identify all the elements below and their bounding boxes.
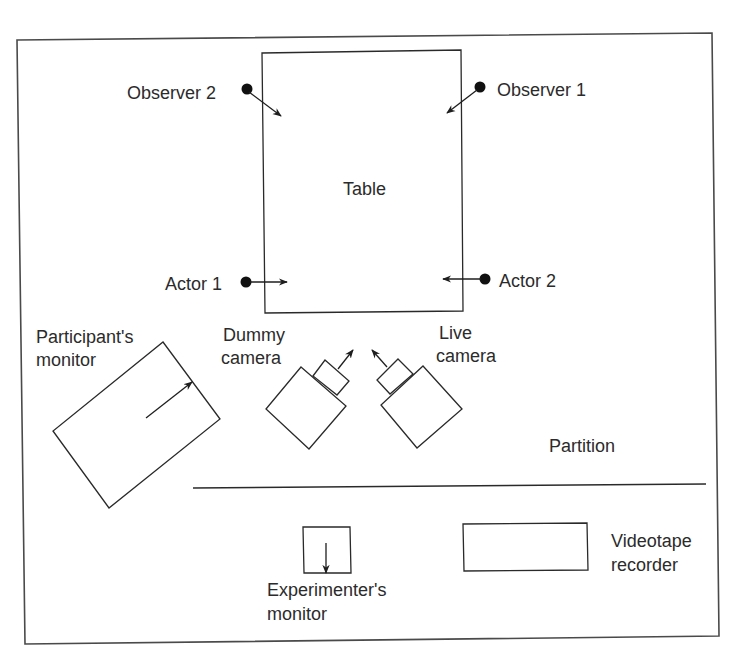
actor-1-label: Actor 1	[165, 274, 222, 294]
live-camera-direction-arrow	[372, 350, 387, 367]
live-camera-label-line2: camera	[436, 346, 497, 366]
experimenters-monitor-label-line1: Experimenter's	[267, 580, 386, 600]
actor-1-dot	[241, 277, 252, 288]
table-label: Table	[343, 179, 386, 199]
live-camera-label-line1: Live	[439, 323, 472, 343]
participants-monitor-direction-arrow	[146, 382, 192, 418]
observer-2-gaze-arrow	[249, 92, 281, 116]
dummy-camera-label-line2: camera	[221, 348, 282, 368]
videotape-recorder-box	[463, 523, 588, 571]
actor-2-label: Actor 2	[499, 271, 556, 291]
live-camera-body	[381, 366, 462, 448]
videotape-recorder-label-line2: recorder	[611, 555, 678, 575]
observer-2-label: Observer 2	[127, 83, 216, 103]
videotape-recorder-label-line1: Videotape	[611, 531, 692, 551]
participants-monitor-label-line2: monitor	[36, 350, 96, 370]
partition-label: Partition	[549, 436, 615, 456]
experimenters-monitor-screen	[303, 527, 351, 573]
partition-line	[193, 484, 706, 488]
dummy-camera-label-line1: Dummy	[223, 325, 285, 345]
room-layout-diagram: Table Observer 2 Observer 1 Actor 1 Acto…	[0, 0, 729, 657]
live-camera-lens	[377, 359, 413, 394]
participants-monitor-label-line1: Participant's	[36, 327, 133, 347]
experimenters-monitor-label-line2: monitor	[267, 604, 327, 624]
dummy-camera-body	[266, 367, 346, 449]
dummy-camera-direction-arrow	[338, 350, 353, 369]
dummy-camera-lens	[313, 360, 349, 395]
actor-2-dot	[480, 274, 491, 285]
observer-1-label: Observer 1	[497, 80, 586, 100]
